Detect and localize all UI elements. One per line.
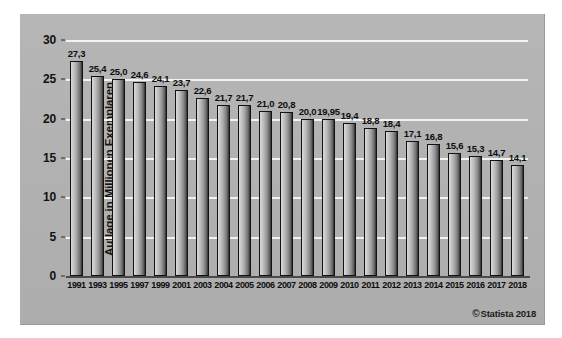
bar-slot: 15,6 — [448, 40, 461, 276]
copyright-icon: © — [472, 308, 479, 319]
x-tick-label: 1993 — [88, 280, 106, 290]
bar-value-label: 25,4 — [89, 63, 106, 74]
x-tick-label: 2012 — [382, 280, 400, 290]
bar[interactable] — [511, 165, 524, 276]
bar[interactable] — [112, 79, 125, 276]
bar[interactable] — [259, 111, 272, 276]
x-tick-label: 1997 — [130, 280, 148, 290]
x-tick-label: 2011 — [362, 280, 380, 290]
bar-slot: 16,8 — [427, 40, 440, 276]
bar-value-label: 24,1 — [152, 73, 169, 84]
bar-value-label: 20,0 — [299, 106, 316, 117]
bar-value-label: 24,6 — [131, 69, 148, 80]
bar-slot: 20,8 — [280, 40, 293, 276]
bar[interactable] — [91, 76, 104, 276]
bar[interactable] — [196, 98, 209, 276]
bar-slot: 24,6 — [133, 40, 146, 276]
bar[interactable] — [322, 119, 335, 276]
y-tick-label: 5 — [50, 230, 56, 244]
y-tick-label: 30 — [43, 33, 56, 47]
y-tick-label: 20 — [43, 112, 56, 126]
x-tick-label: 2018 — [508, 280, 526, 290]
bar[interactable] — [406, 141, 419, 276]
bar-value-label: 19,95 — [317, 106, 339, 117]
bar-value-label: 25,0 — [110, 66, 127, 77]
bar-slot: 19,95 — [322, 40, 335, 276]
bar-slot: 19,4 — [343, 40, 356, 276]
plot-area: 051015202530 27,325,425,024,624,123,722,… — [66, 40, 528, 276]
bar-slot: 21,7 — [238, 40, 251, 276]
bar-value-label: 22,6 — [194, 85, 211, 96]
bar-slot: 23,7 — [175, 40, 188, 276]
bar-value-label: 14,7 — [488, 147, 505, 158]
chart-panel: Auflage in Millionen Exemplaren 05101520… — [20, 14, 545, 325]
x-tick-label: 2013 — [403, 280, 421, 290]
x-tick-label: 2017 — [487, 280, 505, 290]
bar[interactable] — [364, 128, 377, 276]
x-tick-label: 2008 — [298, 280, 316, 290]
credit-statista: ©Statista 2018 — [472, 308, 536, 319]
y-tick-mark — [61, 196, 65, 198]
bar[interactable] — [70, 61, 83, 276]
statista-bar-chart-figure: Auflage in Millionen Exemplaren 05101520… — [0, 0, 562, 338]
bar-slot: 27,3 — [70, 40, 83, 276]
bar-value-label: 16,8 — [425, 131, 442, 142]
x-tick-label: 2016 — [466, 280, 484, 290]
x-tick-label: 2001 — [172, 280, 190, 290]
y-tick-mark — [61, 157, 65, 159]
bar-slot: 22,6 — [196, 40, 209, 276]
bar-slot: 15,3 — [469, 40, 482, 276]
bar[interactable] — [154, 86, 167, 276]
bar-value-label: 27,3 — [68, 48, 85, 59]
bar-slot: 14,1 — [511, 40, 524, 276]
bar-value-label: 20,8 — [278, 99, 295, 110]
credit-text: Statista 2018 — [481, 308, 537, 319]
x-tick-label: 2007 — [277, 280, 295, 290]
bar[interactable] — [217, 105, 230, 276]
bar[interactable] — [301, 119, 314, 276]
bar[interactable] — [343, 123, 356, 276]
x-tick-label: 2006 — [256, 280, 274, 290]
bar-value-label: 19,4 — [341, 110, 358, 121]
bar-slot: 21,7 — [217, 40, 230, 276]
y-tick-mark — [61, 78, 65, 80]
bar[interactable] — [175, 90, 188, 276]
bar-value-label: 23,7 — [173, 77, 190, 88]
bar[interactable] — [490, 160, 503, 276]
bar[interactable] — [427, 144, 440, 276]
bar-value-label: 14,1 — [509, 152, 526, 163]
y-tick-label: 10 — [43, 190, 56, 204]
y-tick-label: 15 — [43, 151, 56, 165]
x-tick-label: 2010 — [340, 280, 358, 290]
bar-value-label: 21,7 — [236, 92, 253, 103]
x-tick-label: 2015 — [445, 280, 463, 290]
x-axis-line — [66, 276, 530, 278]
bar-value-label: 18,4 — [383, 118, 400, 129]
bar-slot: 18,8 — [364, 40, 377, 276]
y-tick-mark — [61, 39, 65, 41]
bar-value-label: 18,8 — [362, 115, 379, 126]
bar-slot: 18,4 — [385, 40, 398, 276]
bar-value-label: 15,3 — [467, 143, 484, 154]
bar-slot: 24,1 — [154, 40, 167, 276]
y-tick-label: 0 — [50, 269, 56, 283]
bar-value-label: 17,1 — [404, 128, 421, 139]
y-tick-mark — [61, 118, 65, 120]
y-tick-mark — [61, 236, 65, 238]
x-tick-label: 2009 — [319, 280, 337, 290]
bar-value-label: 21,0 — [257, 98, 274, 109]
bar-slot: 25,4 — [91, 40, 104, 276]
bar-slot: 17,1 — [406, 40, 419, 276]
bar-slot: 25,0 — [112, 40, 125, 276]
bar[interactable] — [238, 105, 251, 276]
bar[interactable] — [385, 131, 398, 276]
bar[interactable] — [448, 153, 461, 276]
bar-value-label: 15,6 — [446, 140, 463, 151]
bar-value-label: 21,7 — [215, 92, 232, 103]
x-tick-label: 2014 — [424, 280, 442, 290]
y-tick-label: 25 — [43, 72, 56, 86]
bar[interactable] — [469, 156, 482, 276]
bar[interactable] — [280, 112, 293, 276]
x-tick-label: 1991 — [67, 280, 85, 290]
bar[interactable] — [133, 82, 146, 276]
